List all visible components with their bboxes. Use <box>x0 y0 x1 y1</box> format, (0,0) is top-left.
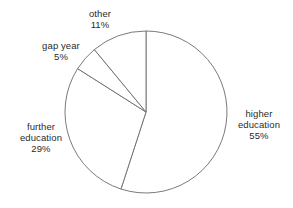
pie-label-higher-education: higher education 55% <box>228 108 290 141</box>
pie-label-other-value: 11% <box>70 19 130 30</box>
pie-label-gap-year-value: 5% <box>18 51 104 62</box>
pie-label-further-education-text-2: education <box>2 132 80 143</box>
pie-label-further-education-text-1: further <box>2 121 80 132</box>
pie-label-other: other 11% <box>70 8 130 30</box>
pie-label-further-education-value: 29% <box>2 143 80 154</box>
pie-label-gap-year-text: gap year <box>18 40 104 51</box>
pie-label-higher-education-value: 55% <box>228 130 290 141</box>
pie-label-gap-year: gap year 5% <box>18 40 104 62</box>
pie-label-further-education: further education 29% <box>2 121 80 154</box>
pie-label-higher-education-text-1: higher <box>228 108 290 119</box>
pie-chart-canvas <box>0 0 293 208</box>
pie-label-other-text: other <box>70 8 130 19</box>
pie-chart: other 11% gap year 5% further education … <box>0 0 293 208</box>
pie-label-higher-education-text-2: education <box>228 119 290 130</box>
